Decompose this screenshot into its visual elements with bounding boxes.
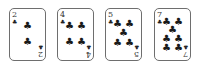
club-icon: ♣ <box>125 38 134 48</box>
club-icon: ♣ <box>23 21 32 31</box>
card-rank-bottom: 4 <box>86 50 91 58</box>
card-rank-bottom: 2 <box>38 50 43 58</box>
playing-card-7-of-clubs[interactable]: 7♣7♣♣♣♣♣♣♣♣ <box>154 8 191 61</box>
playing-card-2-of-clubs[interactable]: 2♣2♣♣♣ <box>9 8 46 61</box>
club-icon: ♣ <box>77 37 86 47</box>
card-rank-bottom: 7 <box>183 50 188 58</box>
club-icon: ♣ <box>65 37 74 47</box>
club-icon: ♣ <box>65 21 74 31</box>
club-icon: ♣ <box>113 38 122 48</box>
club-icon: ♣ <box>174 43 183 53</box>
playing-card-5-of-clubs[interactable]: 5♣5♣♣♣♣♣♣ <box>105 8 142 61</box>
club-icon: ♣ <box>12 19 17 25</box>
card-rank-bottom: 5 <box>134 50 139 58</box>
club-icon: ♣ <box>162 43 171 53</box>
club-icon: ♣ <box>183 44 188 50</box>
playing-card-4-of-clubs[interactable]: 4♣4♣♣♣♣♣ <box>57 8 94 61</box>
club-icon: ♣ <box>77 21 86 31</box>
club-icon: ♣ <box>86 44 91 50</box>
club-icon: ♣ <box>38 44 43 50</box>
club-icon: ♣ <box>23 37 32 47</box>
club-icon: ♣ <box>134 44 139 50</box>
